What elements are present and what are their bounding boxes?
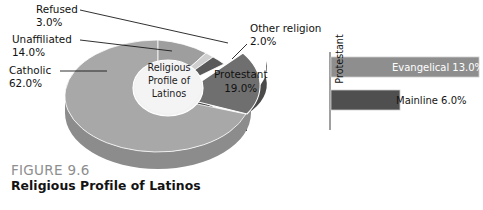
bar-label-mainline: Mainline 6.0% [396,95,467,106]
bar-label-evangelical: Evangelical 13.0% [392,62,483,73]
pie-callout-catholic-value: 62.0% [9,77,51,90]
figure-container: Refused 3.0% Unaffiliated 14.0% Catholic… [0,0,483,210]
pie-center-label-line2: Profile of [148,75,190,86]
pie-callout-refused-value: 3.0% [36,16,78,29]
pie-center-label-line1: Religious [147,62,190,73]
pie-callout-catholic: Catholic 62.0% [9,64,51,91]
figure-number: FIGURE 9.6 [11,163,201,178]
pie-center-label-line3: Latinos [152,88,187,99]
pie-slice-label-protestant: Protestant 19.0% [214,68,267,95]
pie-center-label: Religious Profile of Latinos [140,62,198,100]
pie-callout-refused-name: Refused [36,3,78,15]
pie-slice-label-protestant-name: Protestant [214,68,267,80]
bar-chart-axis-title: Protestant [334,23,348,95]
pie-callout-refused: Refused 3.0% [36,3,78,30]
pie-callout-other-religion-value: 2.0% [250,35,321,48]
pie-slice-label-protestant-value: 19.0% [224,82,257,94]
pie-callout-other-religion-name: Other religion [250,22,321,34]
pie-callout-unaffiliated-value: 14.0% [12,46,72,59]
leader-line-refused [80,10,228,43]
pie-callout-catholic-name: Catholic [9,64,51,76]
pie-callout-unaffiliated-name: Unaffiliated [12,33,72,45]
pie-callout-other-religion: Other religion 2.0% [250,22,321,49]
figure-caption: FIGURE 9.6 Religious Profile of Latinos [11,163,201,193]
figure-title: Religious Profile of Latinos [11,179,201,193]
pie-callout-unaffiliated: Unaffiliated 14.0% [12,33,72,60]
